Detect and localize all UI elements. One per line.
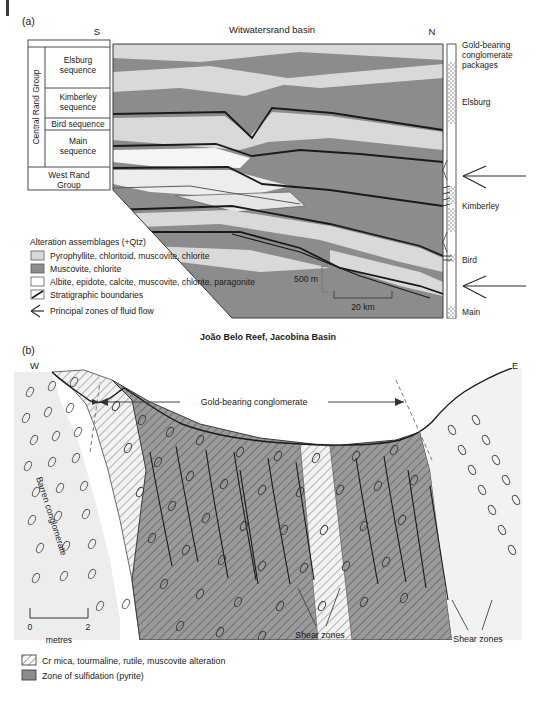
legend-a-item-1: Muscovite, chlorite <box>50 264 121 274</box>
fluid-flow-arrow-lower <box>463 276 526 298</box>
unit-label-kimberley: Kimberleysequence <box>59 92 97 112</box>
borehole-marker-kimberley: Kimberley <box>462 201 500 211</box>
figure-root: (a) Witwatersrand basin S N Central Rand… <box>0 0 536 703</box>
legend-panel-b: Cr mica, tourmaline, rutile, muscovite a… <box>22 655 225 681</box>
legend-b-item-1: Zone of sulfidation (pyrite) <box>42 671 144 681</box>
legend-a-swatch-white <box>31 277 44 286</box>
unit-label-bird: Bird sequence <box>51 119 105 129</box>
fluid-flow-arrow-upper <box>463 166 526 188</box>
panel-b-title: João Belo Reef, Jacobina Basin <box>200 332 336 342</box>
scale-label-horizontal-a: 20 km <box>351 302 374 312</box>
panel-b-label: (b) <box>22 344 35 356</box>
legend-a-title: Alteration assemblages (+Qtz) <box>30 237 146 247</box>
legend-b-swatch-dark <box>22 670 36 680</box>
shear-zones-label-left: Shear zones <box>295 630 345 640</box>
borehole-marker-bird: Bird <box>462 255 477 265</box>
stratigraphic-column: Central Rand Group Elsburgsequence Kimbe… <box>28 40 110 190</box>
legend-a-swatch-dark <box>31 264 44 273</box>
legend-a-item-2: Albite, epidote, calcite, muscovite, chl… <box>50 277 255 287</box>
panel-a-direction-left: S <box>94 26 100 37</box>
legend-a-item-0: Pyrophyllite, chloritoid, muscovite, chl… <box>50 251 210 261</box>
borehole-marker-main: Main <box>462 307 480 317</box>
legend-a-item-3: Stratigraphic boundaries <box>50 290 143 300</box>
legend-b-swatch-hatch <box>22 655 36 665</box>
legend-a-swatch-light <box>31 251 44 260</box>
scale-b-unit: metres <box>46 635 72 645</box>
cross-section-b <box>14 368 522 642</box>
panel-b-direction-left: W <box>30 360 39 371</box>
scale-b-max: 2 <box>86 622 91 632</box>
borehole-marker-elsburg: Elsburg <box>462 97 491 107</box>
panel-a-label: (a) <box>22 15 35 27</box>
shear-zones-label-right: Shear zones <box>453 634 503 644</box>
borehole-header: Gold-bearingconglomeratepackages <box>462 40 513 70</box>
group-label-central-rand: Central Rand Group <box>31 69 41 144</box>
scale-b-min: 0 <box>28 622 33 632</box>
page-margin-bar <box>6 0 9 16</box>
legend-b-item-0: Cr mica, tourmaline, rutile, muscovite a… <box>42 656 225 666</box>
unit-label-elsburg: Elsburgsequence <box>60 55 97 75</box>
legend-a-swatch-flow-arrow <box>31 305 44 317</box>
panel-a-direction-right: N <box>429 26 436 37</box>
panel-a-title: Witwatersrand basin <box>229 24 315 35</box>
scale-label-vertical-a: 500 m <box>294 274 318 284</box>
span-label: Gold-bearing conglomerate <box>201 397 308 407</box>
legend-a-swatch-boundary-line <box>31 290 44 299</box>
borehole-column <box>443 44 456 318</box>
legend-a-item-4: Principal zones of fluid flow <box>50 306 154 316</box>
